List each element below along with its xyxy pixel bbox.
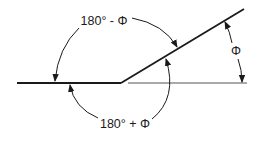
label-phi: Φ — [231, 44, 241, 58]
arc-top-right-arrow — [132, 18, 177, 47]
label-180-plus-phi: 180° + Φ — [100, 117, 150, 131]
arc-phi-upper-arrow — [225, 22, 232, 43]
arc-top-left-arrow — [55, 28, 79, 81]
label-180-minus-phi: 180° - Φ — [81, 14, 128, 28]
arc-bottom-left-arrow — [70, 85, 98, 118]
arc-phi-lower-arrow — [238, 59, 242, 82]
arc-bottom-right-arrow — [152, 59, 170, 119]
angle-diagram: 180° - Φ 180° + Φ Φ — [0, 0, 262, 144]
